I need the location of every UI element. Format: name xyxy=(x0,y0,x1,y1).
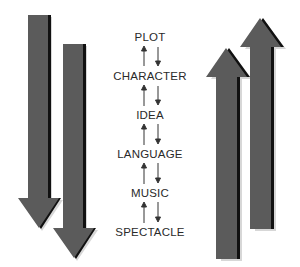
down-arrow-icon xyxy=(53,44,98,261)
level-spectacle: SPECTACLE xyxy=(100,225,200,239)
up-arrow-icon xyxy=(240,18,286,231)
down-arrow-icon xyxy=(18,15,63,231)
level-music: MUSIC xyxy=(100,186,200,200)
level-language: LANGUAGE xyxy=(100,147,200,161)
up-arrow-icon xyxy=(206,48,252,261)
levels-list: PLOT CHARACTER IDEA LANGUAGE MUSIC SPECT… xyxy=(100,0,200,267)
level-idea: IDEA xyxy=(100,108,200,122)
level-plot: PLOT xyxy=(100,30,200,44)
level-character: CHARACTER xyxy=(100,69,200,83)
